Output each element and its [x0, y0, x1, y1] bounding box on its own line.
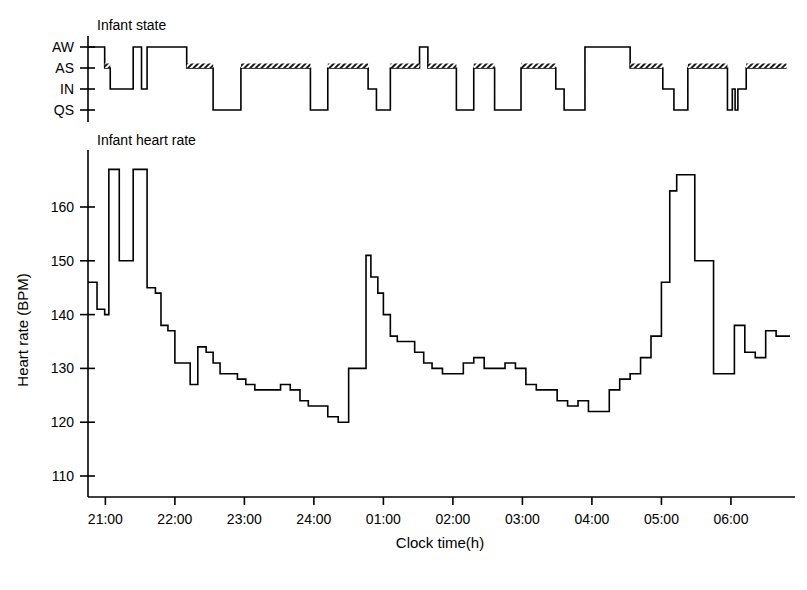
- state-tick-label-as: AS: [55, 60, 74, 76]
- chart-figure: Infant state AW AS IN QS Infant heart ra…: [0, 0, 807, 590]
- hr-x-tick-label: 03:00: [505, 511, 540, 527]
- hr-x-tick-label: 21:00: [88, 511, 123, 527]
- infant-state-and-heart-rate-chart: Infant state AW AS IN QS Infant heart ra…: [0, 0, 807, 590]
- hr-x-tick-label: 04:00: [574, 511, 609, 527]
- hr-x-tick-labels: 21:0022:0023:0024:0001:0002:0003:0004:00…: [88, 511, 749, 527]
- state-tick-label-qs: QS: [54, 102, 74, 118]
- hr-x-tick-label: 01:00: [366, 511, 401, 527]
- hr-x-tick-label: 23:00: [227, 511, 262, 527]
- hr-y-tick-label: 130: [51, 360, 75, 376]
- y-axis-title: Heart rate (BPM): [14, 273, 31, 386]
- state-tick-label-in: IN: [60, 81, 74, 97]
- hr-y-tick-label: 160: [51, 199, 75, 215]
- hr-y-tick-label: 110: [52, 468, 75, 484]
- hr-x-tick-label: 22:00: [157, 511, 192, 527]
- hr-y-tick-labels: 110120130140150160: [51, 199, 75, 484]
- hr-y-tick-label: 120: [51, 414, 75, 430]
- hr-x-tick-label: 06:00: [713, 511, 748, 527]
- infant-state-panel: Infant state AW AS IN QS: [52, 17, 787, 122]
- infant-heart-rate-panel-title: Infant heart rate: [97, 132, 196, 148]
- hr-x-tick-label: 02:00: [435, 511, 470, 527]
- hr-x-tick-label: 05:00: [644, 511, 679, 527]
- infant-state-panel-title: Infant state: [97, 17, 166, 33]
- hr-y-tick-label: 150: [51, 253, 75, 269]
- state-tick-label-aw: AW: [52, 39, 75, 55]
- hr-y-tick-label: 140: [51, 307, 75, 323]
- infant-heart-rate-panel: Infant heart rate 110120130140150160 21:…: [14, 132, 795, 551]
- hr-x-ticks: [105, 497, 731, 505]
- infant-state-hatch-marks: [105, 64, 787, 69]
- hr-x-tick-label: 24:00: [296, 511, 331, 527]
- x-axis-title: Clock time(h): [396, 534, 484, 551]
- infant-heart-rate-trace: [88, 169, 790, 422]
- infant-state-trace: [88, 47, 787, 110]
